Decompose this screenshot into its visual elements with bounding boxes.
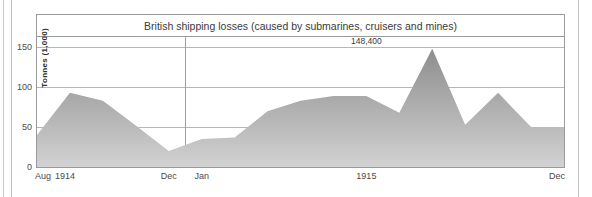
- x-tick-label-1914: 1914: [55, 171, 75, 181]
- x-tick-label-dec: Dec: [161, 171, 177, 181]
- peak-value-label: 148,400: [351, 36, 382, 46]
- x-tick-label-1915: 1915: [356, 171, 376, 181]
- chart-title: British shipping losses (caused by subma…: [37, 15, 564, 37]
- x-tick-label-jan: Jan: [194, 171, 209, 181]
- page-edge-rule-left-outer: [3, 0, 4, 197]
- y-axis-label: Tonnes (1,000): [40, 28, 49, 88]
- y-tick-label-100: 100: [17, 82, 32, 92]
- page-edge-rule-right: [578, 0, 579, 197]
- chart-figure: British shipping losses (caused by subma…: [36, 14, 565, 169]
- plot-area: [36, 36, 565, 168]
- y-tick-label-50: 50: [22, 122, 32, 132]
- chart-title-band: British shipping losses (caused by subma…: [36, 14, 565, 36]
- area-series-british-shipping-losses: [37, 37, 564, 167]
- y-tick-label-0: 0: [27, 162, 32, 172]
- y-tick-label-150: 150: [17, 42, 32, 52]
- x-tick-label-dec: Dec: [549, 171, 565, 181]
- page-edge-rule-left-inner: [11, 0, 12, 197]
- x-tick-label-aug: Aug: [35, 171, 51, 181]
